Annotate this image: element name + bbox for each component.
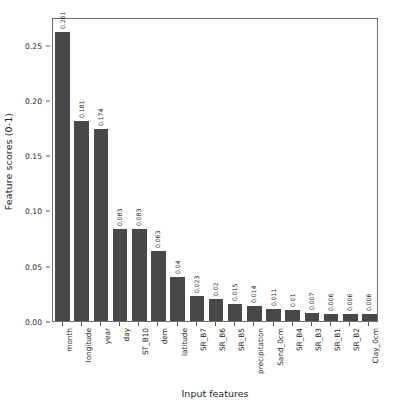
bar — [94, 129, 109, 321]
bar-value-label: 0.261 — [59, 12, 66, 29]
bar — [285, 310, 300, 321]
bar — [343, 314, 358, 321]
x-axis-tick-labels: monthlongitudeyeardayST_B10demlatitudeSR… — [52, 322, 378, 388]
x-axis-tick-label: dem — [160, 328, 169, 344]
bar — [266, 309, 281, 321]
y-axis-tick-mark — [46, 100, 50, 101]
bar-slot: 0.006 — [360, 19, 379, 321]
x-axis-tick-mark — [196, 322, 197, 326]
x-axis-tick-mark — [311, 322, 312, 326]
bar-slot: 0.011 — [264, 19, 283, 321]
x-axis-tick-mark — [330, 322, 331, 326]
bar-value-label: 0.014 — [251, 285, 258, 302]
bar-value-label: 0.063 — [155, 231, 162, 248]
x-axis-tick-mark — [119, 322, 120, 326]
x-axis-tick-label: SR_B2 — [352, 328, 361, 351]
bar-slot: 0.261 — [53, 19, 72, 321]
bar — [132, 229, 147, 321]
y-axis-tick-mark — [46, 211, 50, 212]
bar-slot: 0.083 — [130, 19, 149, 321]
bar-value-label: 0.006 — [327, 294, 334, 311]
y-axis-tick-label: 0.25 — [12, 41, 46, 50]
bar — [228, 304, 243, 321]
bar-slot: 0.174 — [91, 19, 110, 321]
x-axis-title: Input features — [52, 388, 378, 399]
y-axis-tick-label: 0.20 — [12, 96, 46, 105]
x-axis-tick-mark — [234, 322, 235, 326]
plot-area: 0.2610.1810.1740.0830.0830.0630.040.0230… — [52, 18, 378, 322]
x-axis-tick-mark — [215, 322, 216, 326]
y-axis-tick-mark — [46, 45, 50, 46]
x-axis-tick-label: SR_B7 — [199, 328, 208, 351]
bar-slot: 0.063 — [149, 19, 168, 321]
bar-value-label: 0.083 — [116, 209, 123, 226]
x-axis-tick-mark — [349, 322, 350, 326]
bar-slot: 0.181 — [72, 19, 91, 321]
bar — [151, 251, 166, 321]
bar-value-label: 0.04 — [174, 260, 181, 273]
y-axis-tick-label: 0.15 — [12, 152, 46, 161]
x-axis-tick-mark — [100, 322, 101, 326]
bar-value-label: 0.023 — [193, 275, 200, 292]
x-axis-tick-label: precipitation — [256, 328, 265, 374]
bar-slot: 0.083 — [111, 19, 130, 321]
x-axis-tick-mark — [177, 322, 178, 326]
x-axis-tick-label: Clay_0cm — [371, 328, 380, 363]
x-axis-tick-label: year — [103, 328, 112, 344]
x-axis-tick-label: SR_B6 — [218, 328, 227, 351]
bar-value-label: 0.174 — [97, 108, 104, 125]
bar-slot: 0.04 — [168, 19, 187, 321]
x-axis-tick-mark — [62, 322, 63, 326]
x-axis-tick-label: month — [65, 328, 74, 352]
bar-value-label: 0.015 — [231, 284, 238, 301]
bar-series: 0.2610.1810.1740.0830.0830.0630.040.0230… — [53, 19, 377, 321]
bar-value-label: 0.181 — [78, 101, 85, 118]
bar — [209, 299, 224, 321]
x-axis-tick-label: SR_B5 — [237, 328, 246, 351]
y-axis-tick-mark — [46, 266, 50, 267]
y-axis-tick-label: 0.10 — [12, 207, 46, 216]
bar-value-label: 0.007 — [308, 293, 315, 310]
y-axis-tick-mark — [46, 156, 50, 157]
bar-slot: 0.02 — [206, 19, 225, 321]
bar — [113, 229, 128, 321]
bar-value-label: 0.006 — [366, 294, 373, 311]
y-axis-tick-labels: 0.000.050.100.150.200.25 — [12, 0, 46, 410]
bar — [324, 314, 339, 321]
bar — [362, 314, 377, 321]
bar-slot: 0.007 — [302, 19, 321, 321]
y-axis-tick-mark — [46, 322, 50, 323]
bar-value-label: 0.011 — [270, 289, 277, 306]
x-axis-tick-mark — [253, 322, 254, 326]
bar-value-label: 0.02 — [212, 283, 219, 296]
y-axis-tick-label: 0.00 — [12, 318, 46, 327]
bar — [170, 277, 185, 321]
y-axis-tick-label: 0.05 — [12, 262, 46, 271]
bar-value-label: 0.006 — [346, 294, 353, 311]
bar-value-label: 0.083 — [135, 209, 142, 226]
x-axis-tick-label: SR_B4 — [295, 328, 304, 351]
bar-slot: 0.01 — [283, 19, 302, 321]
x-axis-tick-label: SR_B3 — [314, 328, 323, 351]
bar-slot: 0.015 — [226, 19, 245, 321]
x-axis-tick-label: longitude — [84, 328, 93, 362]
bar — [305, 313, 320, 321]
x-axis-tick-label: ST_B10 — [141, 328, 150, 355]
x-axis-tick-mark — [273, 322, 274, 326]
x-axis-tick-mark — [292, 322, 293, 326]
bar-slot: 0.006 — [321, 19, 340, 321]
x-axis-tick-mark — [81, 322, 82, 326]
x-axis-tick-mark — [368, 322, 369, 326]
x-axis-tick-mark — [138, 322, 139, 326]
bar — [190, 296, 205, 321]
x-axis-tick-label: day — [122, 328, 131, 341]
bar — [55, 32, 70, 321]
bar — [247, 306, 262, 321]
bar-slot: 0.006 — [341, 19, 360, 321]
x-axis-tick-label: Sand_0cm — [276, 328, 285, 366]
bar — [74, 121, 89, 321]
bar-slot: 0.014 — [245, 19, 264, 321]
bar-slot: 0.023 — [187, 19, 206, 321]
x-axis-tick-mark — [157, 322, 158, 326]
bar-value-label: 0.01 — [289, 294, 296, 307]
